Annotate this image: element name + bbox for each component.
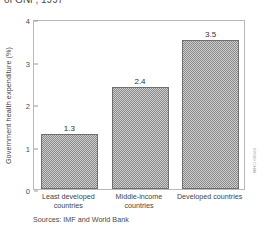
bar: 2.4 [112,87,169,189]
bar-value-label: 3.5 [205,30,216,39]
bar: 1.3 [41,134,98,189]
plot-area: 012341.32.43.5 [33,20,245,190]
chart-title-text: of GNP, 1997 [4,0,184,6]
x-category-label: Middle-income countries [104,192,175,210]
bar-value-label: 2.4 [134,77,145,86]
y-axis-label-text: Government health expenditure (%) [5,46,14,163]
y-tick-mark [34,63,38,64]
publisher-credit: WHO 00046 [249,132,259,188]
y-tick-label: 1 [26,144,30,153]
y-tick-label: 0 [26,187,30,196]
y-tick-label: 4 [26,17,30,26]
y-tick-label: 2 [26,102,30,111]
y-tick-mark [34,148,38,149]
x-category-label: Developed countries [174,192,245,201]
y-axis-label: Government health expenditure (%) [2,18,16,192]
y-tick-mark [34,21,38,22]
y-tick-mark [34,106,38,107]
bar: 3.5 [182,40,239,189]
x-category-label: Least developed countries [33,192,104,210]
chart-title-clipped: of GNP, 1997 [4,0,184,6]
publisher-credit-text: WHO 00046 [252,148,257,173]
source-note: Sources: IMF and World Bank [33,215,129,224]
chart-figure: of GNP, 1997 Government health expenditu… [0,0,266,233]
y-tick-label: 3 [26,59,30,68]
bar-value-label: 1.3 [64,124,75,133]
